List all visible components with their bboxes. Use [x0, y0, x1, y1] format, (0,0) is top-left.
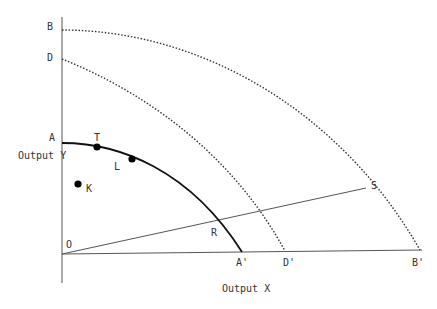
- diagram-canvas: B D A T L K O R S A' D' B' Output Y Outp…: [0, 0, 437, 309]
- label-a-prime: A': [236, 257, 248, 268]
- label-o: O: [66, 239, 72, 250]
- frontier-bb-curve: [62, 30, 420, 250]
- label-d-prime: D': [283, 257, 295, 268]
- point-k-marker: [74, 180, 81, 187]
- label-r: R: [211, 227, 218, 238]
- point-l-marker: [128, 155, 135, 162]
- label-k: K: [86, 183, 92, 194]
- label-d: D: [47, 52, 53, 63]
- label-b: B: [47, 21, 53, 32]
- label-l: L: [114, 161, 120, 172]
- label-t: T: [94, 132, 100, 143]
- label-a: A: [49, 132, 55, 143]
- point-t-marker: [93, 143, 100, 150]
- label-b-prime: B': [412, 257, 424, 268]
- y-axis-title: Output Y: [18, 150, 66, 161]
- label-s: S: [371, 180, 377, 191]
- ray-os: [62, 188, 366, 254]
- frontier-dd-curve: [62, 59, 285, 251]
- x-axis-title: Output X: [222, 283, 270, 294]
